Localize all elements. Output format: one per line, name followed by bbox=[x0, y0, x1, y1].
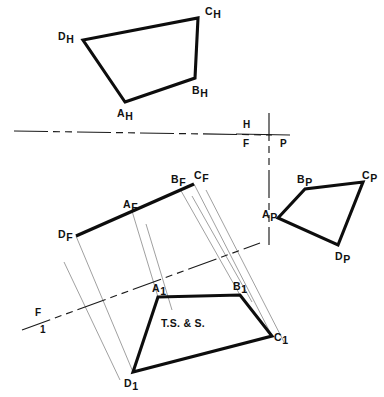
vertex-label-text: BF bbox=[171, 173, 186, 188]
vertex-label-subscript: F bbox=[66, 231, 73, 243]
vertex-label-subscript: 1 bbox=[160, 285, 166, 297]
vertex-label-DP-profile: DP bbox=[335, 250, 350, 265]
vertex-label-subscript: P bbox=[370, 172, 377, 184]
object-views-group bbox=[76, 18, 363, 372]
vertex-label-text: D1 bbox=[124, 377, 138, 392]
vertex-label-A1-auxiliary: A1 bbox=[152, 282, 166, 297]
vertex-label-subscript: F bbox=[131, 201, 138, 213]
vertex-label-subscript: 1 bbox=[282, 334, 288, 346]
vertex-label-BF-front: BF bbox=[171, 173, 186, 188]
fold-label-f-hf: F bbox=[243, 138, 249, 149]
vertex-label-text: C1 bbox=[274, 331, 288, 346]
vertex-label-text: B1 bbox=[233, 280, 247, 295]
view-auxiliary-outline bbox=[133, 295, 272, 372]
vertex-label-D1-auxiliary: D1 bbox=[124, 377, 138, 392]
view-profile-outline bbox=[278, 182, 363, 245]
fold-line-hf bbox=[14, 131, 272, 135]
fold-label-1: 1 bbox=[40, 324, 46, 335]
vertex-label-subscript: H bbox=[200, 87, 208, 99]
vertex-label-text: BP bbox=[297, 173, 312, 188]
proj-C-F-to-1 bbox=[194, 184, 272, 336]
vertex-label-text: DP bbox=[335, 250, 350, 265]
proj-D-F-to-1 bbox=[76, 236, 133, 372]
vertex-label-BP-profile: BP bbox=[297, 173, 312, 188]
fold-label-h: H bbox=[243, 119, 250, 130]
vertex-label-subscript: 1 bbox=[132, 380, 138, 392]
vertex-label-text: AP bbox=[262, 208, 277, 223]
vertex-label-subscript: P bbox=[270, 211, 277, 223]
vertex-label-subscript: 1 bbox=[241, 283, 247, 295]
vertex-label-text: BH bbox=[192, 84, 208, 99]
vertex-label-text: DH bbox=[58, 30, 74, 45]
vertex-label-subscript: F bbox=[179, 176, 186, 188]
fold-label-f-f1: F bbox=[35, 307, 41, 318]
vertex-label-subscript: P bbox=[343, 253, 350, 265]
vertex-label-B1-auxiliary: B1 bbox=[233, 280, 247, 295]
fold-line-f1 bbox=[22, 243, 260, 330]
vertex-label-CF-front: CF bbox=[194, 169, 209, 184]
vertex-label-text: AH bbox=[117, 107, 133, 122]
vertex-label-subscript: H bbox=[66, 33, 74, 45]
vertex-label-AH-top: AH bbox=[117, 107, 133, 122]
vertex-label-BH-top: BH bbox=[192, 84, 208, 99]
vertex-label-CH-top: CH bbox=[205, 5, 221, 20]
projection-lines-group bbox=[64, 184, 284, 380]
vertex-label-text: AF bbox=[123, 198, 138, 213]
vertex-label-AF-front: AF bbox=[123, 198, 138, 213]
vertex-label-text: DF bbox=[58, 228, 73, 243]
vertex-label-AP-profile: AP bbox=[262, 208, 277, 223]
drawing-canvas: AHBHCHDHDFAFBFCFAPBPCPDPA1B1C1D1HFPF1T.S… bbox=[0, 0, 384, 397]
vertex-label-subscript: F bbox=[202, 172, 209, 184]
vertex-label-C1-auxiliary: C1 bbox=[274, 331, 288, 346]
vertex-label-DF-front: DF bbox=[58, 228, 73, 243]
view-top-outline bbox=[83, 18, 198, 102]
vertex-label-text: CF bbox=[194, 169, 209, 184]
vertex-label-text: A1 bbox=[152, 282, 166, 297]
labels-group: AHBHCHDHDFAFBFCFAPBPCPDPA1B1C1D1HFPF1T.S… bbox=[35, 5, 377, 392]
vertex-label-subscript: H bbox=[125, 110, 133, 122]
vertex-label-subscript: H bbox=[213, 8, 221, 20]
vertex-label-text: CH bbox=[205, 5, 221, 20]
true-size-annotation: T.S. & S. bbox=[161, 317, 205, 329]
descriptive-geometry-svg: AHBHCHDHDFAFBFCFAPBPCPDPA1B1C1D1HFPF1T.S… bbox=[0, 0, 384, 397]
vertex-label-DH-top: DH bbox=[58, 30, 74, 45]
vertex-label-subscript: P bbox=[305, 176, 312, 188]
fold-label-p: P bbox=[280, 138, 287, 149]
proj-B-F-to-1 bbox=[180, 189, 240, 295]
